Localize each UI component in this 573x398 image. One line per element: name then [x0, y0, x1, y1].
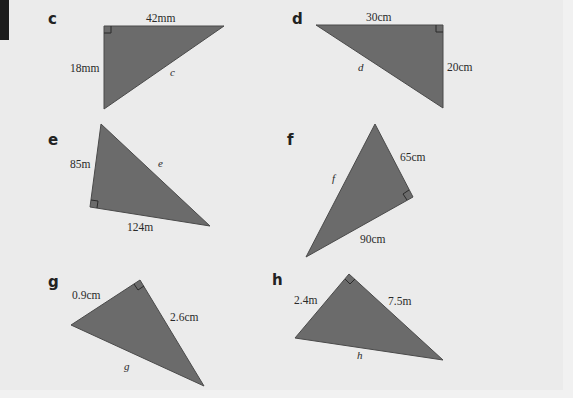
triangle-d — [316, 25, 443, 108]
unknown-label-g: g — [124, 360, 130, 372]
unknown-label-e: e — [158, 157, 163, 169]
side-label-h-right: 7.5m — [388, 295, 411, 307]
part-label-c: c — [48, 10, 57, 28]
unknown-label-h: h — [357, 349, 363, 361]
side-label-e-bottom: 124m — [127, 221, 153, 233]
problem-e: e 85m 124m e — [48, 124, 210, 233]
part-label-g: g — [48, 273, 59, 291]
part-label-h: h — [272, 271, 283, 289]
side-label-d-top: 30cm — [366, 11, 392, 23]
problem-c: c 42mm 18mm c — [48, 10, 224, 109]
triangle-e — [90, 124, 210, 226]
side-label-f-right: 65cm — [400, 151, 426, 163]
part-label-e: e — [48, 131, 58, 149]
triangle-h — [295, 274, 443, 360]
side-label-f-bottom: 90cm — [360, 233, 386, 245]
side-label-g-right: 2.6cm — [170, 311, 198, 323]
side-label-c-left: 18mm — [70, 62, 99, 74]
triangle-c — [104, 26, 224, 109]
problem-f: f 65cm 90cm f — [287, 124, 426, 257]
side-label-c-top: 42mm — [146, 12, 175, 24]
unknown-label-d: d — [358, 61, 364, 73]
unknown-label-f: f — [332, 172, 337, 184]
unknown-label-c: c — [170, 66, 175, 78]
part-label-d: d — [292, 10, 303, 28]
problem-d: d 30cm 20cm d — [292, 10, 473, 108]
side-label-d-right: 20cm — [447, 61, 473, 73]
side-label-g-left: 0.9cm — [72, 289, 100, 301]
side-label-e-left: 85m — [70, 158, 91, 170]
triangle-exercises: c 42mm 18mm c d 30cm 20cm d e 85m 124m e… — [0, 0, 573, 398]
problem-h: h 2.4m 7.5m h — [272, 271, 443, 361]
problem-g: g 0.9cm 2.6cm g — [48, 273, 204, 386]
part-label-f: f — [287, 131, 294, 149]
side-label-h-left: 2.4m — [294, 294, 317, 306]
